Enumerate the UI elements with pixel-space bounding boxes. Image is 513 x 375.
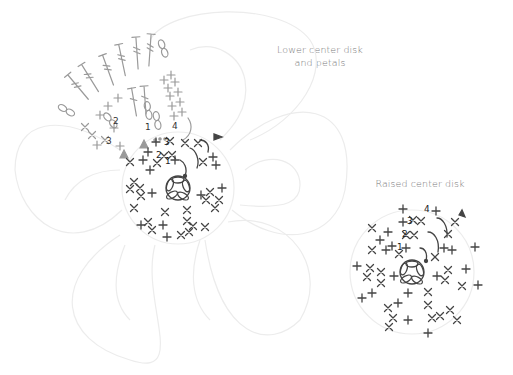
- crochet-chart: 2 3 1 4: [0, 0, 513, 375]
- magic-ring-icon: [399, 260, 425, 286]
- petal-row-1: 1: [145, 122, 151, 132]
- lower-row-2: 2: [156, 150, 162, 160]
- lower-disk-stitches: [127, 134, 227, 241]
- lower-disk-outline: [122, 132, 234, 244]
- petal-row-4: 4: [172, 121, 178, 131]
- raised-disk-outline: [350, 210, 474, 334]
- lower-row-1: 1: [165, 156, 171, 166]
- raised-row-2: 2: [402, 229, 408, 239]
- magic-ring-icon: [165, 176, 191, 202]
- petal-row-3: 3: [106, 136, 112, 146]
- petal-row-2: 2: [113, 116, 119, 126]
- raised-row-4: 4: [424, 204, 430, 214]
- raised-row-3: 3: [407, 216, 413, 226]
- raised-row-1: 1: [397, 242, 403, 252]
- lower-row-3: 3: [164, 137, 170, 147]
- petal-outlines: [15, 12, 347, 363]
